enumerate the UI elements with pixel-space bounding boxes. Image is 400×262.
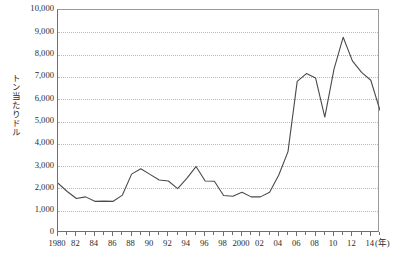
- x-axis-ticks: [57, 232, 379, 237]
- x-axis-tick: [250, 232, 251, 235]
- x-axis-tick: [103, 232, 104, 235]
- x-axis-tick: [305, 232, 306, 235]
- x-axis-tick: [75, 232, 76, 236]
- x-axis-tick-labels: 1980828486889092949698200002040608101214: [0, 238, 400, 254]
- x-axis-tick: [315, 232, 316, 236]
- series-line: [58, 10, 380, 233]
- x-axis-tick: [112, 232, 113, 236]
- x-axis-tick: [351, 232, 352, 236]
- y-axis-tick-label: 6,000: [6, 94, 54, 103]
- x-axis-tick: [379, 232, 380, 235]
- y-axis-tick-label: 0: [6, 227, 54, 236]
- x-axis-tick: [167, 232, 168, 236]
- y-axis-tick-label: 3,000: [6, 161, 54, 170]
- x-axis-tick: [232, 232, 233, 235]
- y-axis-tick-label: 5,000: [6, 116, 54, 125]
- plot-area: [57, 9, 379, 232]
- y-axis-tick-labels: 01,0002,0003,0004,0005,0006,0007,0008,00…: [2, 0, 54, 262]
- x-axis-tick: [342, 232, 343, 235]
- x-axis-tick: [149, 232, 150, 236]
- x-axis-tick: [204, 232, 205, 236]
- line-chart: トン当たりドル 01,0002,0003,0004,0005,0006,0007…: [0, 0, 400, 262]
- x-axis-tick: [57, 232, 58, 236]
- x-axis-tick: [85, 232, 86, 235]
- x-axis-tick: [333, 232, 334, 236]
- y-axis-tick-label: 8,000: [6, 49, 54, 58]
- x-axis-tick: [195, 232, 196, 235]
- x-axis-tick: [259, 232, 260, 236]
- x-axis-title: (年): [375, 238, 390, 248]
- y-axis-tick-label: 10,000: [6, 4, 54, 13]
- x-axis-tick: [213, 232, 214, 235]
- x-axis-tick: [324, 232, 325, 235]
- x-axis-tick: [121, 232, 122, 235]
- data-series-path: [58, 37, 380, 201]
- x-axis-tick: [269, 232, 270, 235]
- x-axis-tick: [131, 232, 132, 236]
- x-axis-tick: [287, 232, 288, 235]
- x-axis-tick: [370, 232, 371, 236]
- x-axis-tick: [361, 232, 362, 235]
- x-axis-tick: [223, 232, 224, 236]
- x-axis-tick: [278, 232, 279, 236]
- x-axis-tick: [140, 232, 141, 235]
- y-axis-tick-label: 2,000: [6, 183, 54, 192]
- x-axis-tick: [177, 232, 178, 235]
- y-axis-tick-label: 9,000: [6, 27, 54, 36]
- x-axis-tick: [94, 232, 95, 236]
- y-axis-tick-label: 4,000: [6, 138, 54, 147]
- x-axis-tick: [186, 232, 187, 236]
- y-axis-tick-label: 1,000: [6, 205, 54, 214]
- x-axis-tick: [158, 232, 159, 235]
- y-axis-tick-label: 7,000: [6, 71, 54, 80]
- x-axis-tick: [241, 232, 242, 236]
- x-axis-tick: [296, 232, 297, 236]
- x-axis-tick: [66, 232, 67, 235]
